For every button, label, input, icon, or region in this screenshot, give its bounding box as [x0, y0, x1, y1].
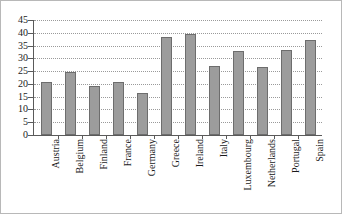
y-tick-label-40: 40 [2, 28, 28, 38]
bar-france [113, 82, 124, 135]
x-label-text: Netherlands [266, 139, 277, 187]
y-tick-label-25: 25 [2, 66, 28, 76]
y-tick-30 [28, 58, 33, 59]
x-category-label-italy: Italy [218, 139, 229, 157]
x-label-text: Greece [170, 139, 181, 167]
x-category-label-france: France [122, 139, 133, 166]
x-label-text: Germany [146, 139, 157, 176]
gridline-35 [34, 46, 322, 47]
gridline-25 [34, 71, 322, 72]
x-category-label-greece: Greece [170, 139, 181, 167]
x-category-label-finland: Finland [98, 139, 109, 170]
bar-austria [41, 82, 52, 135]
gridline-20 [34, 84, 322, 85]
x-category-label-netherlands: Netherlands [266, 139, 277, 187]
x-category-label-austria: Austria [50, 139, 61, 168]
y-tick-25 [28, 71, 33, 72]
bar-italy [209, 66, 220, 135]
y-tick-15 [28, 97, 33, 98]
gridline-30 [34, 58, 322, 59]
gridline-45 [34, 20, 322, 21]
x-label-text: Spain [314, 139, 325, 162]
y-tick-40 [28, 33, 33, 34]
x-axis-category-labels: AustriaBelgiumFinlandFranceGermanyGreece… [34, 139, 322, 213]
x-category-label-belgium: Belgium [74, 139, 85, 173]
x-label-text: Finland [98, 139, 109, 170]
y-tick-label-45: 45 [2, 15, 28, 25]
bar-germany [137, 93, 148, 135]
y-tick-label-30: 30 [2, 53, 28, 63]
y-tick-45 [28, 20, 33, 21]
bar-finland [89, 86, 100, 135]
bar-greece [161, 37, 172, 135]
gridline-5 [34, 122, 322, 123]
y-tick-label-10: 10 [2, 104, 28, 114]
y-axis-line [33, 20, 34, 136]
bar-netherlands [257, 67, 268, 135]
y-tick-10 [28, 109, 33, 110]
bar-spain [305, 40, 316, 135]
y-tick-label-5: 5 [2, 117, 28, 127]
x-label-text: Belgium [74, 139, 85, 173]
x-category-label-luxembourg: Luxembourg [242, 139, 253, 190]
y-tick-0 [28, 135, 33, 136]
gridline-15 [34, 97, 322, 98]
gridline-40 [34, 33, 322, 34]
y-tick-label-35: 35 [2, 41, 28, 51]
bar-portugal [281, 50, 292, 135]
y-tick-20 [28, 84, 33, 85]
plot-frame [34, 20, 322, 135]
x-label-text: Luxembourg [242, 139, 253, 190]
y-axis-tick-labels: 051015202530354045 [1, 1, 28, 214]
bar-belgium [65, 72, 76, 135]
x-label-text: France [122, 139, 133, 166]
x-label-text: Austria [50, 139, 61, 168]
bar-luxembourg [233, 51, 244, 135]
x-category-label-portugal: Portugal [290, 139, 301, 173]
x-label-text: Portugal [290, 139, 301, 173]
x-category-label-ireland: Ireland [194, 139, 205, 167]
y-tick-label-20: 20 [2, 79, 28, 89]
plot-area [34, 20, 322, 135]
x-category-label-germany: Germany [146, 139, 157, 176]
y-tick-label-15: 15 [2, 92, 28, 102]
x-category-label-spain: Spain [314, 139, 325, 162]
bar-chart-figure: 051015202530354045 AustriaBelgiumFinland… [0, 0, 342, 214]
y-tick-label-0: 0 [2, 130, 28, 140]
gridline-10 [34, 109, 322, 110]
y-tick-5 [28, 122, 33, 123]
x-label-text: Italy [218, 139, 229, 157]
y-tick-35 [28, 46, 33, 47]
x-label-text: Ireland [194, 139, 205, 167]
bar-ireland [185, 34, 196, 135]
